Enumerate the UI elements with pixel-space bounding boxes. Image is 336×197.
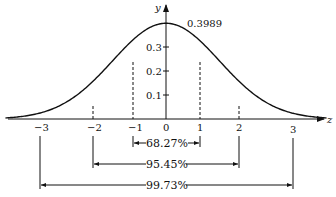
interval-68-label: 68.27% — [146, 137, 188, 150]
y-tick-label: 0.2 — [146, 66, 162, 77]
normal-distribution-diagram: z y 0.3 0.2 0.1 0.3989 −3 −2 −1 0 1 2 3 … — [0, 0, 336, 197]
z-axis-label: z — [326, 114, 333, 125]
svg-text:2: 2 — [236, 122, 242, 133]
y-axis-label: y — [154, 2, 161, 13]
diagram-canvas: z y 0.3 0.2 0.1 0.3989 −3 −2 −1 0 1 2 3 … — [0, 0, 336, 197]
svg-text:−1: −1 — [128, 122, 143, 133]
svg-text:−2: −2 — [87, 122, 102, 133]
interval-99-label: 99.73% — [146, 179, 188, 192]
svg-text:1: 1 — [197, 122, 203, 133]
y-tick-label: 0.1 — [146, 90, 162, 101]
svg-text:−3: −3 — [34, 122, 49, 133]
svg-text:0: 0 — [163, 122, 169, 133]
interval-95-label: 95.45% — [146, 158, 188, 171]
y-tick-label: 0.3 — [146, 42, 162, 53]
x-tick-labels: −3 −2 −1 0 1 2 3 — [34, 122, 296, 135]
svg-text:3: 3 — [290, 124, 296, 135]
peak-value-label: 0.3989 — [187, 18, 222, 29]
